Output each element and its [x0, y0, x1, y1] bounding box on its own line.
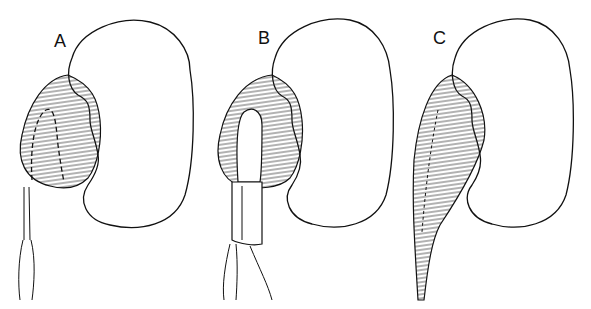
renal-pelvis-a	[20, 75, 100, 188]
panel-label-b: B	[258, 28, 270, 48]
ureter-flap-b	[232, 182, 262, 245]
ureter-a	[24, 187, 30, 240]
panel-label-a: A	[54, 31, 66, 51]
panel-b: B	[218, 19, 393, 300]
pyeloplasty-illustration: A B C	[0, 0, 591, 309]
panel-label-c: C	[433, 28, 446, 48]
flap-b	[237, 109, 262, 182]
panel-a: A	[19, 20, 194, 300]
panel-c: C	[413, 19, 573, 300]
